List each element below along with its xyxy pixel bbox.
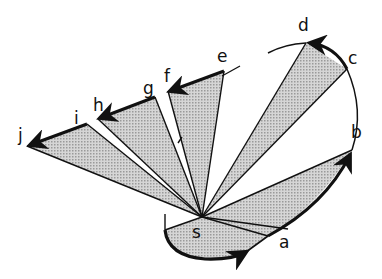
label-a: a xyxy=(279,232,289,252)
shaded-regions xyxy=(27,43,352,259)
label-f: f xyxy=(164,66,171,86)
fan-diagram: s a b c d e f g h i j xyxy=(0,0,382,279)
label-e: e xyxy=(217,46,227,66)
e-tick xyxy=(222,66,240,76)
label-d: d xyxy=(298,15,309,35)
label-i: i xyxy=(74,108,79,128)
label-s: s xyxy=(192,222,201,242)
label-h: h xyxy=(93,95,104,115)
label-c: c xyxy=(348,48,357,68)
label-j: j xyxy=(17,125,23,145)
label-b: b xyxy=(351,122,362,142)
label-g: g xyxy=(143,78,154,98)
